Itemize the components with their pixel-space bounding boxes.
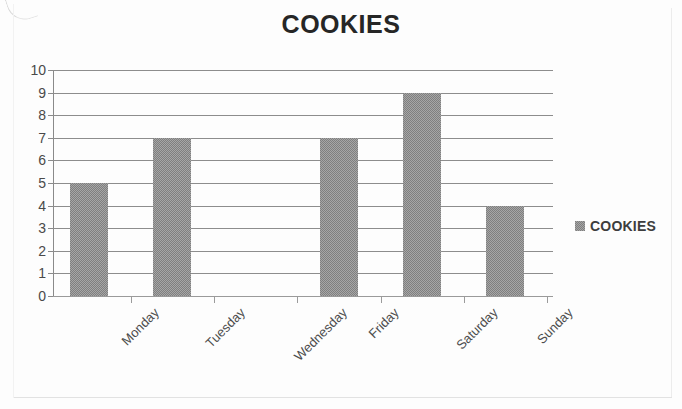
- bar-tuesday: [153, 138, 191, 296]
- chart-page: COOKIES 109876543210 MondayTuesdayWednes…: [0, 0, 682, 409]
- bar-monday: [70, 183, 108, 296]
- y-tick-label-3: 3: [20, 221, 46, 235]
- bar-saturday: [403, 93, 441, 296]
- page-edge-bottom-artifact: [14, 397, 672, 398]
- gridline-4: [53, 206, 553, 207]
- x-label-tuesday: Tuesday: [202, 305, 248, 351]
- legend-label: COOKIES: [590, 218, 656, 234]
- legend-swatch-icon: [575, 221, 585, 231]
- gridline-1: [53, 273, 553, 274]
- gridline-6: [53, 160, 553, 161]
- x-tick-mark-3: [381, 297, 382, 303]
- y-tick-label-0: 0: [20, 289, 46, 303]
- gridline-7: [53, 138, 553, 139]
- x-label-monday: Monday: [118, 305, 161, 348]
- y-tick-label-2: 2: [20, 244, 46, 258]
- chart-title: COOKIES: [0, 10, 682, 39]
- bar-sunday: [486, 206, 524, 296]
- plot-area: [53, 70, 553, 296]
- y-tick-label-4: 4: [20, 199, 46, 213]
- gridline-2: [53, 251, 553, 252]
- x-tick-mark-2: [297, 297, 298, 303]
- y-axis-tick-labels: 109876543210: [14, 0, 46, 409]
- gridline-3: [53, 228, 553, 229]
- y-tick-label-10: 10: [20, 63, 46, 77]
- gridline-9: [53, 93, 553, 94]
- x-label-sunday: Sunday: [534, 305, 576, 347]
- x-label-friday: Friday: [365, 305, 401, 341]
- y-tick-label-5: 5: [20, 176, 46, 190]
- gridline-5: [53, 183, 553, 184]
- x-label-wednesday: Wednesday: [291, 305, 350, 364]
- y-tick-label-6: 6: [20, 153, 46, 167]
- x-tick-mark-4: [464, 297, 465, 303]
- y-tick-label-9: 9: [20, 86, 46, 100]
- gridline-10: [53, 70, 553, 71]
- x-tick-mark-1: [214, 297, 215, 303]
- x-label-saturday: Saturday: [453, 305, 500, 352]
- y-tick-label-1: 1: [20, 266, 46, 280]
- x-tick-mark-5: [547, 297, 548, 303]
- chart-legend: COOKIES: [575, 218, 656, 234]
- page-edge-right-artifact: [671, 8, 672, 398]
- bar-friday: [320, 138, 358, 296]
- y-tick-label-8: 8: [20, 108, 46, 122]
- gridline-8: [53, 115, 553, 116]
- x-tick-mark-0: [131, 297, 132, 303]
- y-tick-label-7: 7: [20, 131, 46, 145]
- gridline-0: [53, 296, 553, 297]
